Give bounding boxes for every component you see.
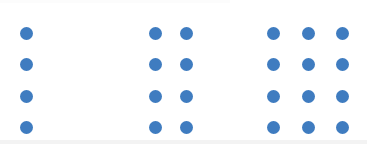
dot bbox=[302, 121, 315, 134]
dot bbox=[20, 90, 33, 103]
dot bbox=[180, 121, 193, 134]
dot bbox=[302, 58, 315, 71]
dot bbox=[20, 27, 33, 40]
dot bbox=[267, 58, 280, 71]
figure-canvas bbox=[0, 0, 367, 144]
dot bbox=[267, 90, 280, 103]
dot bbox=[336, 27, 349, 40]
dot bbox=[267, 121, 280, 134]
dot bbox=[149, 121, 162, 134]
dot bbox=[302, 90, 315, 103]
top-edge-band bbox=[0, 0, 230, 3]
dot bbox=[302, 27, 315, 40]
dot bbox=[180, 58, 193, 71]
dot bbox=[267, 27, 280, 40]
dot bbox=[149, 90, 162, 103]
dot bbox=[336, 58, 349, 71]
dot bbox=[20, 121, 33, 134]
dot bbox=[20, 58, 33, 71]
dot bbox=[180, 90, 193, 103]
dot bbox=[336, 90, 349, 103]
bottom-edge-band bbox=[0, 140, 367, 144]
dot bbox=[149, 58, 162, 71]
dot bbox=[149, 27, 162, 40]
dot bbox=[180, 27, 193, 40]
dot bbox=[336, 121, 349, 134]
